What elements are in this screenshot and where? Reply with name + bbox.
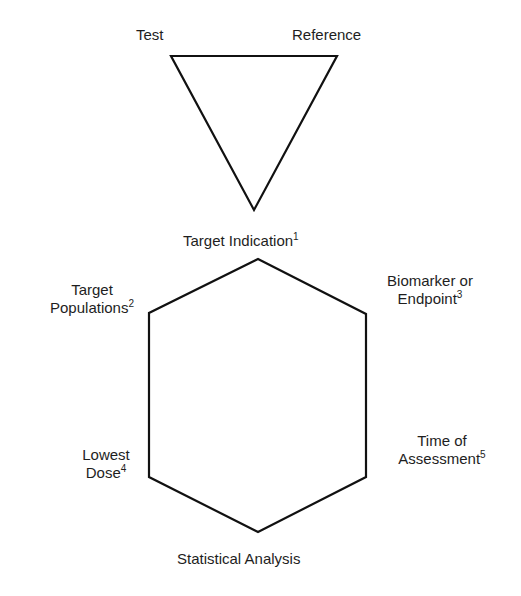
label-line-2: Assessment5: [378, 450, 506, 468]
label-line-1: Lowest: [66, 446, 146, 464]
label-time-of-assessment: Time of Assessment5: [378, 432, 506, 468]
label-biomarker-endpoint: Biomarker or Endpoint3: [366, 272, 494, 308]
label-line-1: Time of: [378, 432, 506, 450]
footnote-marker: 2: [128, 298, 134, 309]
label-line-1: Biomarker or: [366, 272, 494, 290]
label-line-2: Populations2: [48, 299, 136, 317]
label-target-populations: Target Populations2: [48, 281, 136, 317]
footnote-marker: 4: [121, 463, 127, 474]
label-statistical-analysis: Statistical Analysis: [177, 550, 300, 568]
label-lowest-dose: Lowest Dose4: [66, 446, 146, 482]
study-design-hexagon: [149, 259, 366, 532]
label-target-indication: Target Indication1: [183, 232, 299, 250]
comparison-triangle: [171, 56, 337, 210]
footnote-marker: 3: [457, 289, 463, 300]
label-reference: Reference: [292, 26, 361, 44]
label-line-2: Endpoint3: [366, 290, 494, 308]
footnote-marker: 5: [480, 449, 486, 460]
label-line-1: Target: [48, 281, 136, 299]
label-line-2: Dose4: [66, 464, 146, 482]
label-test: Test: [136, 26, 164, 44]
label-text: Target Indication: [183, 232, 293, 249]
footnote-marker: 1: [293, 231, 299, 242]
